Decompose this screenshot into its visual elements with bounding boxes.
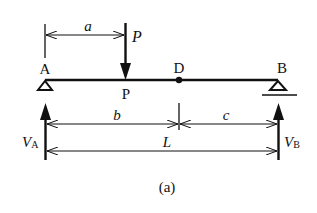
label-dim-c: c bbox=[223, 107, 230, 123]
beam-diagram: A D B P P a b c L VA VB (a) bbox=[0, 0, 317, 213]
label-point-b: B bbox=[277, 60, 287, 76]
label-point-p: P bbox=[122, 86, 130, 102]
label-point-d: D bbox=[174, 60, 185, 76]
load-p-arrow-icon bbox=[120, 23, 131, 80]
label-point-a: A bbox=[40, 61, 51, 77]
support-a-icon bbox=[38, 81, 52, 90]
label-dim-b: b bbox=[113, 107, 121, 123]
label-reaction-va: VA bbox=[22, 134, 39, 150]
label-dim-l: L bbox=[162, 134, 171, 150]
label-reaction-vb: VB bbox=[284, 134, 300, 150]
support-b-icon bbox=[262, 81, 297, 95]
label-load-p: P bbox=[131, 28, 142, 45]
figure-caption: (a) bbox=[159, 179, 176, 196]
label-dim-a: a bbox=[84, 18, 92, 34]
point-d-dot bbox=[176, 77, 182, 83]
